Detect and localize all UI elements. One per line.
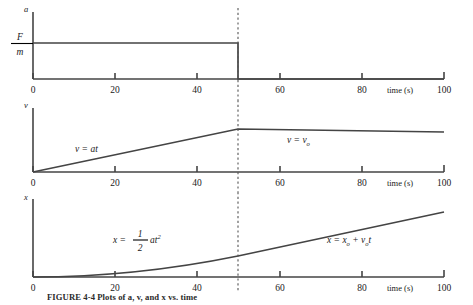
a-ticklabel-80: 80	[357, 85, 367, 95]
velocity-ramp-equation: v = at	[75, 144, 98, 154]
position-quad-numerator: 1	[138, 229, 143, 239]
a-ticklabel-100: 100	[437, 85, 452, 95]
velocity-flat-equation: v = vo	[287, 135, 311, 147]
acceleration-panel: a F m 0 20 40 60 80 100 time (s)	[11, 4, 451, 100]
figure-svg: a F m 0 20 40 60 80 100 time (s) v v = a…	[0, 0, 473, 305]
v-ticklabel-40: 40	[192, 178, 202, 188]
position-quad-rhs: at2	[150, 233, 161, 245]
a-time-axis-label: time (s)	[387, 85, 413, 95]
a-ticklabel-60: 60	[275, 85, 285, 95]
position-quad-denominator: 2	[138, 243, 143, 253]
acceleration-axis-label: a	[24, 4, 28, 14]
physics-figure: a F m 0 20 40 60 80 100 time (s) v v = a…	[0, 0, 473, 305]
acceleration-y-denominator: m	[17, 47, 24, 57]
figure-caption: FIGURE 4-4 Plots of a, v, and x vs. time	[47, 292, 467, 305]
position-linear-equation: x = xo + vot	[326, 235, 371, 247]
position-panel: x x = 1 2 at2 x = xo + vot 0 20 40 60 80…	[23, 192, 451, 293]
velocity-panel: v v = at v = vo 0 20 40 60 80 100 time (…	[24, 100, 451, 192]
a-ticklabel-20: 20	[110, 85, 120, 95]
v-ticklabel-60: 60	[275, 178, 285, 188]
v-time-axis-label: time (s)	[387, 178, 413, 188]
velocity-axis-label: v	[24, 100, 28, 110]
x-ticklabel-0: 0	[31, 283, 36, 293]
v-ticklabel-100: 100	[437, 178, 452, 188]
a-ticklabel-40: 40	[192, 85, 202, 95]
v-ticklabel-80: 80	[357, 178, 367, 188]
position-quadratic-equation: x = 1 2 at2	[112, 229, 161, 253]
acceleration-y-numerator: F	[16, 32, 23, 42]
v-ticklabel-0: 0	[31, 178, 36, 188]
position-axis-label: x	[23, 192, 28, 202]
position-quad-lhs: x =	[112, 235, 126, 245]
a-ticklabel-0: 0	[31, 85, 36, 95]
v-ticklabel-20: 20	[110, 178, 120, 188]
